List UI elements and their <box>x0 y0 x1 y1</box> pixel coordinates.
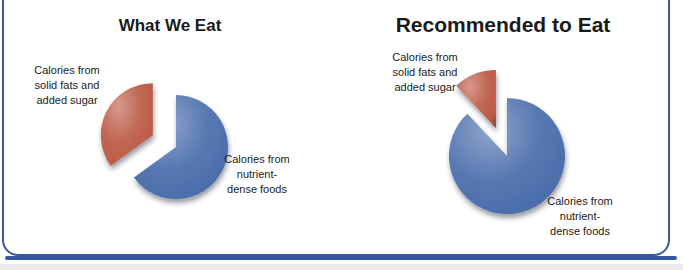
slice-label-solid-fats: Calories from solid fats and added sugar <box>19 63 115 108</box>
pie-plot-what-we-eat <box>0 0 341 260</box>
pie-plot-recommended-to-eat <box>341 0 683 260</box>
pie-chart-recommended-to-eat: Recommended to Eat Calories from solid f… <box>341 0 683 260</box>
slice-label-nutrient-dense: Calories from nutrient- dense foods <box>532 194 628 239</box>
pie-chart-what-we-eat: What We Eat Calories from solid fats and… <box>0 0 341 260</box>
page-bottom-strip <box>0 264 683 270</box>
slice-label-nutrient-dense: Calories from nutrient- dense foods <box>209 152 305 197</box>
slice-label-solid-fats: Calories from solid fats and added sugar <box>377 50 473 95</box>
frame-bottom-line <box>5 256 677 260</box>
